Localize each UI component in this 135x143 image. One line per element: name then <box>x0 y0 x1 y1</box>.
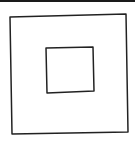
diagram-canvas <box>0 0 135 143</box>
outer-square <box>10 14 128 134</box>
inner-square <box>46 47 94 93</box>
